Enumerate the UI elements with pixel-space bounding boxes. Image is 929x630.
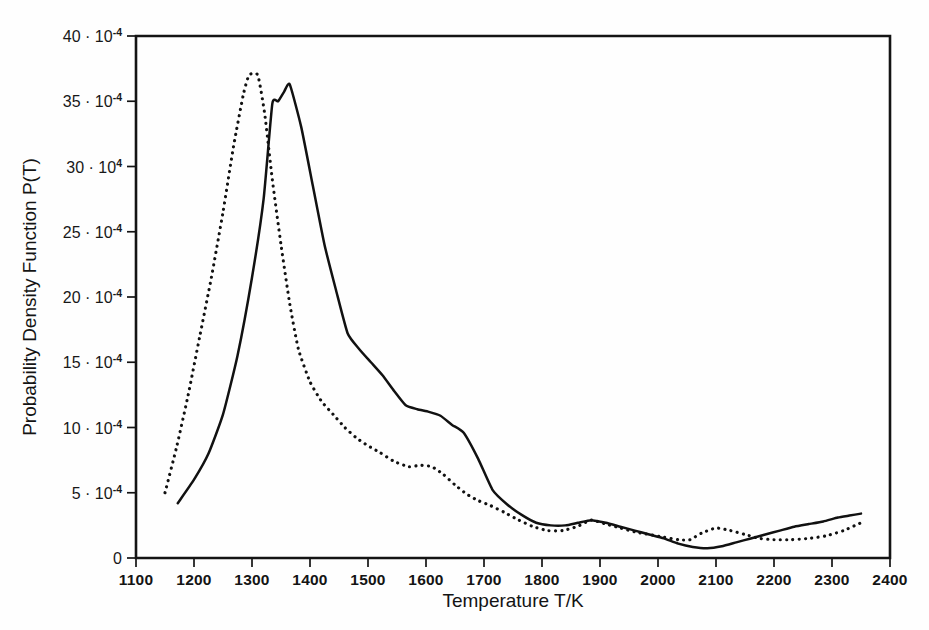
x-tick-label: 1800: [524, 571, 559, 588]
y-axis-ticks: [127, 36, 136, 558]
y-tick-label: 15 · 10-4: [63, 352, 122, 371]
y-tick-label: 40 · 10-4: [63, 26, 122, 45]
x-axis-title: Temperature T/K: [442, 590, 583, 611]
x-axis-tick-labels: 1100120013001400150016001700180019002000…: [119, 571, 908, 588]
chart-canvas: 1100120013001400150016001700180019002000…: [0, 0, 929, 630]
x-tick-label: 1400: [292, 571, 327, 588]
x-tick-label: 1200: [176, 571, 211, 588]
y-tick-label: 25 · 10-4: [63, 222, 122, 241]
x-tick-label: 2200: [756, 571, 791, 588]
x-tick-label: 2300: [814, 571, 849, 588]
x-axis-ticks: [136, 558, 890, 567]
x-tick-label: 1500: [350, 571, 385, 588]
y-tick-label: 5 · 10-4: [72, 483, 122, 502]
x-tick-label: 1600: [408, 571, 443, 588]
x-tick-label: 1900: [582, 571, 617, 588]
data-series-group: [165, 73, 861, 548]
y-tick-label: 0: [113, 550, 122, 567]
y-axis-tick-labels: 05 · 10-410 · 10-415 · 10-420 · 10-425 ·…: [63, 26, 122, 567]
y-tick-label: 35 · 10-4: [63, 91, 122, 110]
x-tick-label: 1100: [119, 571, 153, 588]
y-axis-title: Probability Density Function P(T): [19, 158, 40, 436]
x-tick-label: 1300: [234, 571, 269, 588]
x-tick-label: 2100: [698, 571, 733, 588]
y-tick-label: 30 · 104: [66, 157, 122, 176]
figure-container: 1100120013001400150016001700180019002000…: [0, 0, 929, 630]
series-solid-curve: [178, 84, 861, 548]
x-tick-label: 1700: [466, 571, 501, 588]
x-tick-label: 2400: [872, 571, 907, 588]
x-tick-label: 2000: [640, 571, 675, 588]
y-tick-label: 20 · 10-4: [63, 287, 122, 306]
y-tick-label: 10 · 10-4: [63, 418, 122, 437]
